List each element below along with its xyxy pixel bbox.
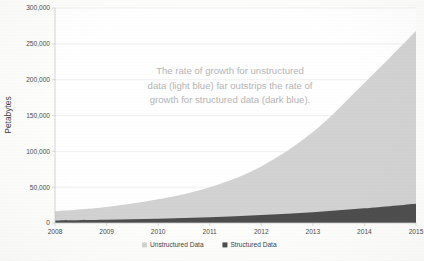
x-tick-label: 2010 <box>151 228 166 235</box>
y-tick-label: 150,000 <box>26 112 50 119</box>
annotation-line: data (light blue) far outstrips the rate… <box>148 80 313 91</box>
x-tick-label: 2013 <box>306 228 321 235</box>
legend-marker <box>222 242 227 247</box>
y-axis-ticks: 050,000100,000150,000200,000250,000300,0… <box>26 4 55 226</box>
growth-annotation: The rate of growth for unstructureddata … <box>148 65 313 105</box>
y-tick-label: 100,000 <box>26 148 50 155</box>
x-tick-label: 2012 <box>254 228 269 235</box>
y-tick-label: 250,000 <box>26 40 50 47</box>
legend-label: Unstructured Data <box>150 241 204 248</box>
y-tick-label: 300,000 <box>26 4 50 11</box>
y-tick-label: 0 <box>46 219 50 226</box>
annotation-line: growth for structured data (dark blue). <box>150 94 311 105</box>
annotation-line: The rate of growth for unstructured <box>156 65 304 76</box>
y-tick-label: 200,000 <box>26 76 50 83</box>
x-tick-label: 2014 <box>357 228 372 235</box>
area-chart: 050,000100,000150,000200,000250,000300,0… <box>0 0 424 261</box>
x-tick-label: 2008 <box>48 228 63 235</box>
chart-canvas: 050,000100,000150,000200,000250,000300,0… <box>0 0 424 261</box>
y-tick-label: 50,000 <box>30 184 51 191</box>
x-axis-ticks: 20082009201020112012201320142015 <box>48 223 424 235</box>
x-tick-label: 2011 <box>203 228 218 235</box>
y-axis-title: Petabytes <box>3 96 13 133</box>
legend-marker <box>142 242 147 247</box>
x-tick-label: 2009 <box>99 228 114 235</box>
x-tick-label: 2015 <box>409 228 424 235</box>
legend-label: Structured Data <box>230 241 277 248</box>
chart-legend: Unstructured DataStructured Data <box>142 241 277 248</box>
